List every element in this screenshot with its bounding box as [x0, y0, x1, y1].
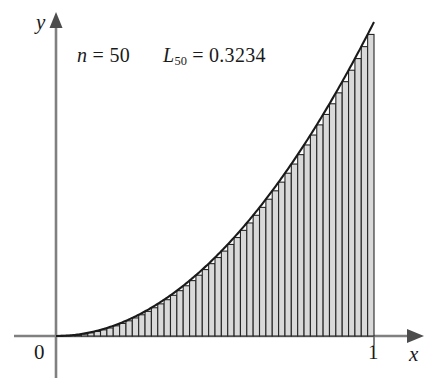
riemann-rectangle	[145, 311, 151, 336]
riemann-rectangle	[336, 93, 342, 336]
annotation-n-number: 50	[110, 44, 131, 66]
riemann-rectangle	[202, 270, 208, 336]
riemann-rectangle	[183, 286, 189, 336]
annotation-L50-value: L50 = 0.3234	[163, 44, 266, 69]
annotation-L-equals: =	[187, 44, 209, 66]
riemann-rectangle	[113, 326, 119, 336]
riemann-rectangle	[209, 264, 215, 336]
x-axis-arrowhead	[407, 329, 424, 343]
riemann-rectangle	[107, 328, 113, 336]
riemann-rectangle	[368, 34, 374, 336]
x-axis-label: x	[409, 342, 418, 367]
riemann-rectangle	[177, 291, 183, 336]
annotation-L-subscript: 50	[174, 54, 186, 68]
annotation-L-number: 0.3234	[209, 44, 266, 66]
y-axis-label: y	[36, 10, 45, 35]
y-axis-arrowhead	[50, 12, 63, 28]
riemann-rectangle	[151, 308, 157, 336]
origin-tick-label: 0	[34, 340, 45, 365]
riemann-rectangle	[228, 244, 234, 336]
riemann-rectangle	[266, 199, 272, 336]
riemann-rectangle	[304, 145, 310, 336]
riemann-rectangle	[253, 215, 259, 336]
y-axis	[50, 12, 63, 378]
riemann-rectangle	[349, 70, 355, 336]
riemann-rectangle	[247, 223, 253, 336]
riemann-rectangle	[317, 125, 323, 336]
riemann-rectangle	[260, 207, 266, 336]
riemann-rectangle	[196, 275, 202, 336]
riemann-rectangle	[120, 323, 126, 336]
riemann-rectangle	[298, 155, 304, 336]
riemann-rectangle	[272, 191, 278, 336]
riemann-rectangle	[329, 104, 335, 336]
annotation-n-value: n = 50	[77, 44, 130, 67]
riemann-rectangle	[310, 135, 316, 336]
riemann-rectangle	[164, 300, 170, 336]
riemann-rectangle	[101, 330, 107, 336]
riemann-rectangle	[240, 230, 246, 336]
riemann-rectangle	[291, 164, 297, 336]
riemann-rectangle	[221, 251, 227, 336]
annotation-n-symbol: n	[77, 44, 87, 66]
riemann-rectangle	[132, 318, 138, 336]
riemann-rectangle	[355, 59, 361, 336]
riemann-rectangle	[342, 82, 348, 336]
riemann-rectangle	[190, 281, 196, 336]
riemann-rectangle	[234, 238, 240, 336]
annotation-n-equals: =	[87, 44, 109, 66]
riemann-rectangles	[62, 34, 374, 336]
riemann-rectangle	[215, 258, 221, 337]
riemann-rectangle	[285, 173, 291, 336]
annotation-L-symbol: L	[163, 44, 174, 66]
riemann-rectangle	[158, 304, 164, 336]
riemann-rectangle	[139, 315, 145, 336]
riemann-rectangle	[279, 182, 285, 336]
x-tick-label-1: 1	[368, 340, 379, 365]
riemann-rectangle	[126, 321, 132, 336]
riemann-rectangle	[170, 295, 176, 336]
riemann-rectangle	[323, 114, 329, 336]
riemann-rectangle	[361, 47, 367, 336]
